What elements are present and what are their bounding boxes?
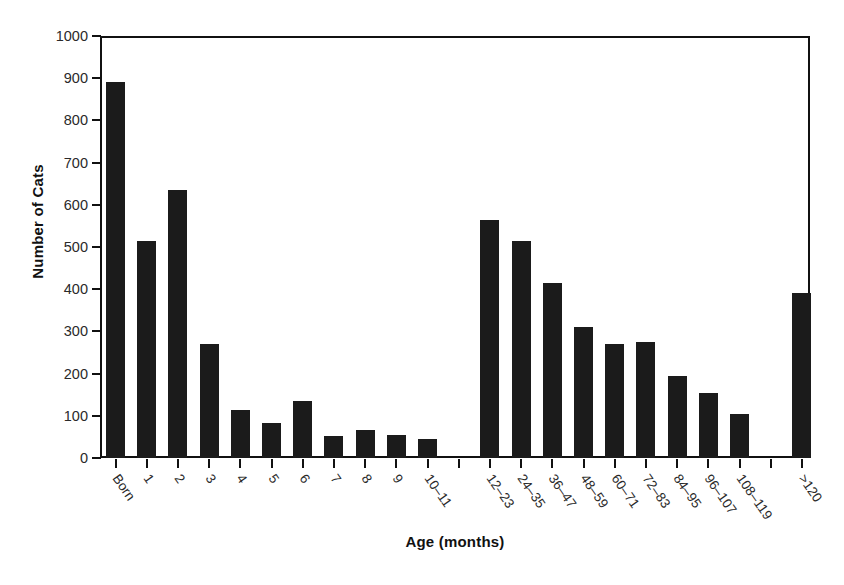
x-axis-tick-mark [583,459,585,468]
bar [636,342,655,458]
bar [356,430,375,458]
x-axis-tick-label: 10–11 [421,472,453,510]
x-axis-tick-mark [489,459,491,468]
x-axis-tick-mark [364,459,366,468]
x-axis-tick-label: 9 [390,472,405,486]
y-axis-tick-label: 600 [38,198,88,213]
bar [512,241,531,458]
x-axis-tick-label: 2 [172,472,187,486]
x-axis-tick-label: 12–23 [484,472,517,510]
x-axis-tick-mark [271,459,273,468]
x-axis-tick-mark [551,459,553,468]
x-axis-tick-mark [676,459,678,468]
x-axis-tick-mark [770,459,772,468]
bar [168,190,187,458]
bar-series [100,36,810,458]
y-axis-tick-label: 200 [38,366,88,381]
bar [699,393,718,458]
x-axis-tick-label: 36–47 [546,472,579,510]
x-axis-tick-label: 4 [234,472,249,486]
bar [387,435,406,458]
bar [668,376,687,458]
x-axis-tick-label: 24–35 [515,472,548,510]
bar [324,436,343,458]
x-axis-tick-mark [239,459,241,468]
x-axis-tick-label: 84–95 [671,472,704,510]
x-axis-tick-mark [302,459,304,468]
x-axis-tick-label: 6 [297,472,312,486]
x-axis-tick-label: 60–71 [609,472,642,510]
bar-chart-figure: Number of Cats 0100200300400500600700800… [0,0,844,585]
x-axis-tick-mark [739,459,741,468]
bar [605,344,624,458]
bar [231,410,250,458]
x-axis-tick-mark [177,459,179,468]
x-axis-tick-label: 3 [203,472,218,486]
x-axis-tick-label: 8 [359,472,374,486]
bar [792,293,811,458]
x-axis-tick-mark [801,459,803,468]
bar [418,439,437,458]
y-axis-tick-label: 100 [38,409,88,424]
bar [137,241,156,458]
y-axis-tick-label: 800 [38,113,88,128]
bar [293,401,312,458]
x-axis-tick-label: 5 [265,472,280,486]
x-axis-tick-mark [395,459,397,468]
x-axis-tick-label: 48–59 [577,472,610,510]
x-axis-tick-label: 1 [141,472,156,486]
y-axis-tick-label: 300 [38,324,88,339]
x-axis-tick-mark [208,459,210,468]
y-axis-tick-label: 900 [38,71,88,86]
x-axis-tick-mark [427,459,429,468]
x-axis-tick-mark [333,459,335,468]
x-axis-tick-mark [458,459,460,468]
y-axis-tick-label: 400 [38,282,88,297]
x-axis-tick-mark [707,459,709,468]
x-axis-tick-mark [146,459,148,468]
x-axis-tick-mark [520,459,522,468]
bar [106,82,125,458]
x-axis-tick-mark [645,459,647,468]
bar [262,423,281,458]
x-axis-tick-mark [115,459,117,468]
x-axis-tick-label: >120 [796,472,825,505]
y-axis-tick-label: 0 [38,451,88,466]
bar [543,283,562,458]
bar [730,414,749,458]
y-axis-tick-label: 500 [38,240,88,255]
x-axis-title: Age (months) [100,533,810,550]
x-axis-tick-label: 108–119 [733,472,774,522]
y-axis-tick-label: 1000 [38,29,88,44]
x-axis-tick-mark [614,459,616,468]
x-axis-tick-label: Born [109,472,136,503]
x-axis-tick-label: 72–83 [640,472,673,510]
x-axis-tick-label: 7 [328,472,343,486]
bar [200,344,219,458]
bar [480,220,499,458]
y-axis-tick-label: 700 [38,155,88,170]
bar [574,327,593,458]
y-axis-tick-labels: 01002003004005006007008009001000 [38,36,88,458]
